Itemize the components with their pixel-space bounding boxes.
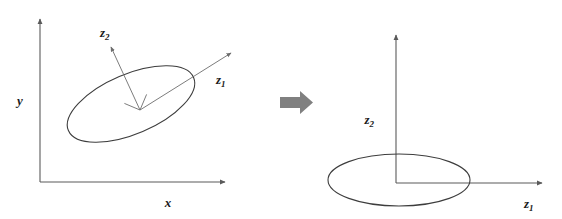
z1-axis-label: z1 — [215, 72, 226, 89]
data-scatter-ellipse — [57, 50, 206, 158]
z1-axis-label-right: z1 — [523, 196, 534, 213]
right-panel-group: z2 z1 — [328, 35, 542, 213]
transformation-arrow-group — [280, 91, 313, 114]
y-axis-label: y — [15, 93, 23, 108]
decorrelated-scatter-ellipse — [328, 154, 470, 206]
x-axis-label: x — [164, 195, 172, 210]
left-panel-group: y x z1 z2 — [15, 19, 231, 210]
right-arrow-icon — [280, 91, 313, 114]
diagram-canvas: y x z1 z2 z2 z1 — [0, 0, 562, 219]
diagram-svg: y x z1 z2 z2 z1 — [0, 0, 562, 219]
z2-axis-label-right: z2 — [363, 112, 374, 129]
z2-axis-label: z2 — [99, 25, 110, 42]
